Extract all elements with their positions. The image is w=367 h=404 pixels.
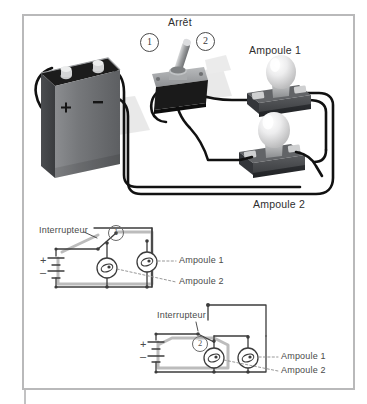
schematic-2-label-ampoule-2: Ampoule 2 (281, 365, 326, 375)
schematic-2-switch-pointer (196, 322, 198, 331)
schematic-1-battery (48, 258, 64, 278)
schematic-illustrations (0, 0, 367, 404)
figure-root: Arrêt 1 2 Ampoule 1 Ampoule 2 (0, 0, 367, 404)
schematic-2-switch-label: Interrupteur (157, 310, 206, 320)
schematic-1-label-ampoule-1: Ampoule 1 (179, 255, 224, 265)
schematic-2-battery-minus: – (140, 350, 146, 362)
schematic-2-battery (148, 342, 164, 362)
schematic-1-battery-minus: – (40, 266, 46, 278)
schematic-1-label-ampoule-2: Ampoule 2 (179, 276, 224, 286)
schematic-2-battery-plus: + (140, 338, 147, 350)
schematic-1-lamp-2 (97, 258, 117, 278)
schematic-2-lamp-2 (204, 348, 224, 368)
schematic-1-battery-plus: + (40, 254, 47, 266)
schematic-1-switch-label: Interrupteur (39, 225, 88, 235)
schematic-2-position-badge: 2 (192, 336, 208, 352)
schematic-2-label-ampoule-1: Ampoule 1 (281, 351, 326, 361)
schematic-1-position-badge: 1 (108, 225, 124, 241)
schematic-1-lamp-1 (137, 252, 157, 272)
